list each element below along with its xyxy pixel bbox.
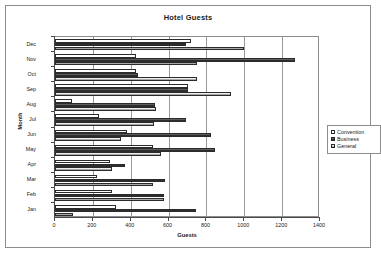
- legend-label: Business: [337, 136, 359, 142]
- legend-label: General: [337, 143, 356, 149]
- x-axis-label-1200: 1200: [268, 222, 294, 228]
- y-axis-tick: [51, 66, 54, 67]
- bar-row: [55, 62, 318, 66]
- bar-row: [55, 122, 318, 126]
- y-axis-label-mar: Mar: [14, 176, 36, 182]
- bar-general-apr: [55, 167, 112, 171]
- bar-group-dec: [55, 37, 318, 52]
- bar-group-apr: [55, 158, 318, 173]
- y-axis-tick: [51, 51, 54, 52]
- legend-label: Convention: [337, 129, 364, 135]
- bar-group-may: [55, 143, 318, 158]
- bar-general-oct: [55, 77, 197, 81]
- y-axis-tick: [51, 187, 54, 188]
- x-axis-tick: [243, 218, 244, 221]
- bar-general-jul: [55, 122, 154, 126]
- x-axis-title: Guests: [54, 232, 320, 238]
- x-axis-label-1400: 1400: [306, 222, 332, 228]
- bar-group-nov: [55, 52, 318, 67]
- y-axis-tick: [51, 142, 54, 143]
- bar-group-jan: [55, 203, 318, 217]
- y-axis-tick: [51, 202, 54, 203]
- bar-general-jun: [55, 137, 121, 141]
- x-axis-tick: [281, 218, 282, 221]
- bar-row: [55, 183, 318, 187]
- x-axis-tick: [130, 218, 131, 221]
- bar-general-nov: [55, 62, 197, 66]
- bar-general-aug: [55, 107, 156, 111]
- x-axis-label-600: 600: [155, 222, 181, 228]
- chart-legend: ConventionBusinessGeneral: [327, 125, 381, 154]
- x-axis-tick: [205, 218, 206, 221]
- y-axis-label-may: May: [14, 146, 36, 152]
- bar-row: [55, 213, 318, 217]
- bar-group-jul: [55, 112, 318, 127]
- x-axis-label-0: 0: [41, 222, 67, 228]
- legend-item-business[interactable]: Business: [331, 136, 378, 143]
- bar-general-feb: [55, 198, 164, 202]
- y-axis-label-apr: Apr: [14, 161, 36, 167]
- bar-group-mar: [55, 173, 318, 188]
- bar-general-may: [55, 152, 161, 156]
- x-axis-tick: [168, 218, 169, 221]
- bar-row: [55, 137, 318, 141]
- x-axis-label-1000: 1000: [230, 222, 256, 228]
- y-axis-tick: [51, 111, 54, 112]
- y-axis-label-dec: Dec: [14, 41, 36, 47]
- legend-item-convention[interactable]: Convention: [331, 129, 378, 136]
- legend-swatch-business: [331, 137, 335, 141]
- y-axis-tick: [51, 81, 54, 82]
- bar-row: [55, 198, 318, 202]
- y-axis-label-jun: Jun: [14, 131, 36, 137]
- legend-item-general[interactable]: General: [331, 143, 378, 150]
- plot-area: [54, 36, 319, 217]
- y-axis-tick: [51, 157, 54, 158]
- legend-swatch-general: [331, 144, 335, 148]
- y-axis-tick: [51, 172, 54, 173]
- bar-general-dec: [55, 47, 244, 51]
- bar-general-mar: [55, 183, 153, 187]
- bar-general-jan: [55, 213, 73, 217]
- x-axis-tick: [319, 218, 320, 221]
- y-axis-line: [54, 36, 55, 218]
- bar-row: [55, 47, 318, 51]
- y-axis-label-jul: Jul: [14, 116, 36, 122]
- x-axis-label-200: 200: [79, 222, 105, 228]
- y-axis-tick: [51, 36, 54, 37]
- chart-title: Hotel Guests: [6, 13, 370, 22]
- bar-group-aug: [55, 97, 318, 112]
- bar-row: [55, 152, 318, 156]
- x-axis-label-800: 800: [192, 222, 218, 228]
- bar-row: [55, 107, 318, 111]
- bar-row: [55, 92, 318, 96]
- x-axis-tick: [92, 218, 93, 221]
- x-axis-line: [54, 217, 320, 218]
- y-axis-label-sep: Sep: [14, 86, 36, 92]
- y-axis-tick: [51, 96, 54, 97]
- bar-group-jun: [55, 128, 318, 143]
- bar-group-oct: [55, 67, 318, 82]
- y-axis-label-nov: Nov: [14, 56, 36, 62]
- y-axis-label-aug: Aug: [14, 101, 36, 107]
- y-axis-label-feb: Feb: [14, 191, 36, 197]
- y-axis-label-oct: Oct: [14, 71, 36, 77]
- bar-row: [55, 77, 318, 81]
- x-axis-label-400: 400: [117, 222, 143, 228]
- bar-general-sep: [55, 92, 231, 96]
- bar-row: [55, 167, 318, 171]
- x-axis-tick: [54, 218, 55, 221]
- chart-frame: Hotel Guests Month Guests ConventionBusi…: [5, 5, 371, 248]
- bar-group-sep: [55, 82, 318, 97]
- y-axis-label-jan: Jan: [14, 206, 36, 212]
- y-axis-tick: [51, 127, 54, 128]
- bar-group-feb: [55, 188, 318, 203]
- legend-swatch-convention: [331, 130, 335, 134]
